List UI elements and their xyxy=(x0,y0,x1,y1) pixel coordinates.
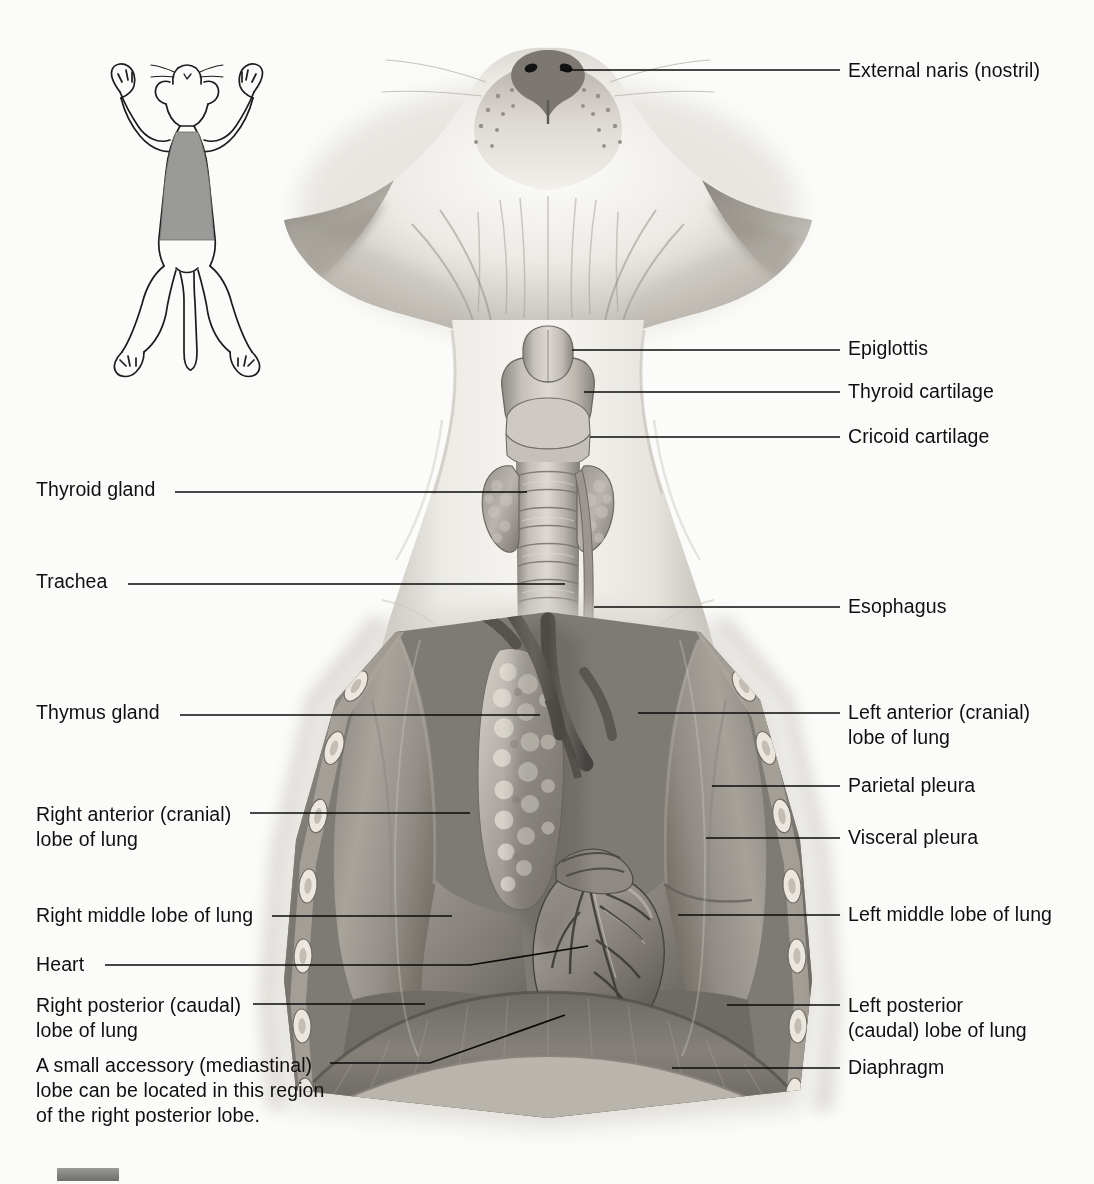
cricoid-cartilage xyxy=(506,398,590,449)
label-epiglottis[interactable]: Epiglottis xyxy=(848,336,928,361)
label-thymus-gland[interactable]: Thymus gland xyxy=(36,700,160,725)
label-left-middle-lobe[interactable]: Left middle lobe of lung xyxy=(848,902,1052,927)
label-right-posterior-lobe-line1: Right posterior (caudal) xyxy=(36,994,241,1016)
label-thyroid-cartilage[interactable]: Thyroid cartilage xyxy=(848,379,994,404)
label-left-posterior-lobe-line2: (caudal) lobe of lung xyxy=(848,1019,1027,1041)
label-thyroid-gland[interactable]: Thyroid gland xyxy=(36,477,155,502)
label-right-anterior-lobe[interactable]: Right anterior (cranial)lobe of lung xyxy=(36,802,231,852)
label-accessory-lobe-note-line1: A small accessory (mediastinal) xyxy=(36,1054,312,1076)
label-diaphragm[interactable]: Diaphragm xyxy=(848,1055,944,1080)
label-left-posterior-lobe[interactable]: Left posterior(caudal) lobe of lung xyxy=(848,993,1027,1043)
label-accessory-lobe-note-line3: of the right posterior lobe. xyxy=(36,1104,260,1126)
label-left-posterior-lobe-line1: Left posterior xyxy=(848,994,963,1016)
label-esophagus[interactable]: Esophagus xyxy=(848,594,946,619)
label-heart[interactable]: Heart xyxy=(36,952,84,977)
label-left-anterior-lobe[interactable]: Left anterior (cranial)lobe of lung xyxy=(848,700,1030,750)
label-right-posterior-lobe-line2: lobe of lung xyxy=(36,1019,138,1041)
label-trachea[interactable]: Trachea xyxy=(36,569,108,594)
label-right-posterior-lobe[interactable]: Right posterior (caudal)lobe of lung xyxy=(36,993,241,1043)
label-visceral-pleura[interactable]: Visceral pleura xyxy=(848,825,978,850)
label-accessory-lobe-note-line2: lobe can be located in this region xyxy=(36,1079,325,1101)
label-parietal-pleura[interactable]: Parietal pleura xyxy=(848,773,975,798)
label-right-anterior-lobe-line2: lobe of lung xyxy=(36,828,138,850)
label-cricoid-cartilage[interactable]: Cricoid cartilage xyxy=(848,424,990,449)
page-corner-mark xyxy=(57,1168,119,1181)
label-external-naris[interactable]: External naris (nostril) xyxy=(848,58,1040,83)
label-right-middle-lobe[interactable]: Right middle lobe of lung xyxy=(36,903,253,928)
label-accessory-lobe-note[interactable]: A small accessory (mediastinal)lobe can … xyxy=(36,1053,325,1128)
anatomy-figure: External naris (nostril) Epiglottis Thyr… xyxy=(0,0,1094,1184)
label-left-anterior-lobe-line2: lobe of lung xyxy=(848,726,950,748)
label-right-anterior-lobe-line1: Right anterior (cranial) xyxy=(36,803,231,825)
label-left-anterior-lobe-line1: Left anterior (cranial) xyxy=(848,701,1030,723)
